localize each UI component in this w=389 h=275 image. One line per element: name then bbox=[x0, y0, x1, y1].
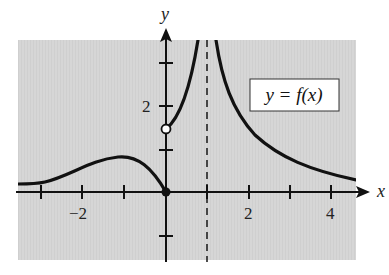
y-axis-label: y bbox=[159, 4, 169, 24]
open-point bbox=[162, 125, 171, 134]
y-tick-label-2: 2 bbox=[142, 97, 151, 116]
x-tick-label-2: 2 bbox=[244, 204, 253, 223]
curve-label: y = f(x) bbox=[263, 84, 322, 106]
x-tick-label-neg2: −2 bbox=[69, 204, 87, 223]
plot-background bbox=[18, 40, 356, 260]
function-graph: −2 2 4 2 x y y = f(x) bbox=[0, 0, 389, 275]
closed-point bbox=[162, 188, 171, 197]
x-axis-label: x bbox=[376, 181, 385, 201]
x-tick-label-4: 4 bbox=[326, 204, 335, 223]
